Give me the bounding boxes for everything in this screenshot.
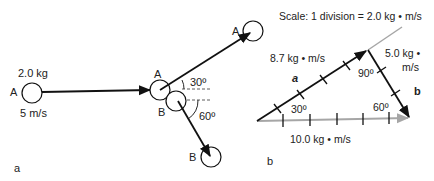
ball-a-final: [243, 21, 263, 41]
angle-right: 60º: [373, 101, 389, 113]
panel-a-caption: a: [14, 162, 21, 174]
vector-b-magnitude-2: m/s: [402, 61, 419, 73]
ball-a-initial-label: A: [10, 86, 18, 98]
angle-arc-b: [188, 100, 198, 119]
angle-top: 90º: [358, 67, 374, 79]
angle-a-label: 30º: [190, 76, 206, 88]
ball-a-initial: [22, 83, 42, 103]
panel-b-caption: b: [267, 155, 273, 167]
vector-b-ticks: [377, 67, 400, 96]
vector-a-magnitude: 8.7 kg • m/s: [270, 52, 325, 64]
scale-label: Scale: 1 division = 2.0 kg • m/s: [279, 10, 422, 22]
mass-label: 2.0 kg: [18, 67, 48, 79]
collision-b-label: B: [158, 106, 165, 118]
final-a-label: A: [232, 25, 240, 37]
vector-a-label: a: [292, 72, 298, 84]
resultant-vector: [257, 118, 408, 121]
speed-label: 5 m/s: [20, 107, 47, 119]
final-b-label: B: [189, 151, 196, 163]
ball-b-final: [201, 147, 221, 167]
initial-velocity-arrow: [42, 90, 150, 92]
resultant-magnitude: 10.0 kg • m/s: [290, 133, 351, 145]
angle-left: 30º: [291, 103, 307, 115]
momentum-diagram: 2.0 kg A 5 m/s A B 30º 60º A B a Scale: …: [0, 0, 434, 181]
vector-b-label: b: [414, 85, 421, 97]
collision-a-label: A: [154, 68, 162, 80]
angle-arc-a: [182, 80, 184, 89]
panel-a: 2.0 kg A 5 m/s A B 30º 60º A B a: [10, 21, 263, 174]
angle-b-label: 60º: [199, 110, 215, 122]
panel-b: Scale: 1 division = 2.0 kg • m/s 8.7 kg …: [257, 10, 422, 167]
vector-b-magnitude-1: 5.0 kg •: [385, 47, 421, 59]
